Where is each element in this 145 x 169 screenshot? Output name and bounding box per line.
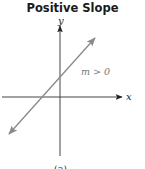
y-axis-label: y — [57, 15, 64, 26]
slope-label: m > 0 — [81, 66, 110, 77]
x-axis-label: x — [126, 91, 132, 102]
positive-slope-line — [9, 38, 95, 134]
slope-diagram: x y m > 0 (a) — [0, 0, 145, 169]
figure-caption: (a) — [54, 163, 67, 169]
